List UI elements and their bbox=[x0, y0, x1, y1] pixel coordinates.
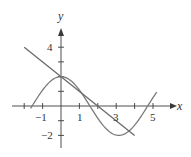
y-axis-arrow-icon bbox=[58, 28, 64, 36]
x-tick-label-3: 3 bbox=[113, 111, 119, 123]
x-tick-label-5: 5 bbox=[150, 111, 156, 123]
x-tick-label-neg1: −1 bbox=[35, 111, 47, 123]
axes bbox=[12, 28, 177, 148]
y-tick-label-neg2: −2 bbox=[41, 129, 53, 141]
axis-labels: y x 4 −2 −1 1 3 5 bbox=[35, 9, 183, 141]
y-axis-label: y bbox=[57, 9, 64, 23]
x-axis-arrow-icon bbox=[170, 103, 177, 109]
y-tick-label-4: 4 bbox=[47, 41, 53, 53]
x-axis-label: x bbox=[176, 99, 183, 113]
function-plot: y x 4 −2 −1 1 3 5 bbox=[0, 0, 191, 157]
x-tick-label-1: 1 bbox=[77, 111, 83, 123]
